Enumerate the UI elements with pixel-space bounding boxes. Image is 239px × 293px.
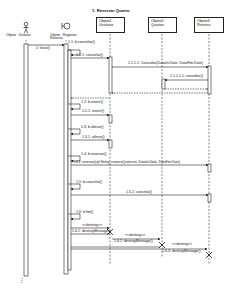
actor-user-icon <box>24 22 29 33</box>
msg-1-6: 1.6: b.fim() <box>76 211 93 215</box>
object-quartos: Objeto2 : Quartos <box>148 17 177 33</box>
object-reserva-class: Reserva <box>197 23 221 27</box>
msg-1-1-1-1: 1.1.1.1: Consultar(DataIni:Date, DataFim… <box>128 62 203 66</box>
msg-1-2-1: 1.2.1: inserir() <box>82 110 104 114</box>
msg-1-6-3-stereotype: <<destroy>> <box>172 243 192 247</box>
msg-1-3-1: 1.3.1: alterar() <box>82 136 105 140</box>
msg-1-1-1-1-1: 1.1.1.1.1: consultar() <box>170 75 203 79</box>
msg-1-4: 1.4: b.reservar() <box>81 153 107 157</box>
msg-1: 1: listar() <box>36 47 50 51</box>
actor-user-label: Objeto : Usuário <box>6 34 31 37</box>
msg-1-2: 1.2: b.inserir() <box>81 101 103 105</box>
msg-1-5-1: 1.5.1: cancelar() <box>126 191 152 195</box>
msg-1-6-2-stereotype: <<destroy>> <box>125 234 145 238</box>
object-usuarios: Objeto1 : Usuários <box>96 17 125 33</box>
object-quartos-class: Quartos <box>151 23 174 27</box>
sequence-diagram: 1. Reservar Quarto Objeto : Usuário Obje… <box>0 0 239 293</box>
msg-1-6-1: 1.6.1: destroyMessage() <box>72 230 111 234</box>
msg-1-3: 1.3: b.alterar() <box>81 126 104 130</box>
msg-1-1: 1.1: b.consultar() <box>68 41 95 45</box>
object-usuarios-class: Usuários <box>99 23 122 27</box>
diagram-lines <box>0 0 239 293</box>
msg-1-6-1-stereotype: <<destroy>> <box>82 224 102 228</box>
object-reserva: Objeto3 : Reserva <box>194 17 224 33</box>
boundary-icon <box>62 23 70 29</box>
msg-1-1-1: 1.1.1: consultar() <box>76 54 103 58</box>
msg-1-6-2: 1.6.2: destroyMessage() <box>114 240 153 244</box>
msg-1-6-3: 1.6.3: destroyMessage() <box>162 250 201 254</box>
msg-1-4-1: 1.4.1: reservar(cpf:String, numeroQuarto… <box>73 161 180 164</box>
msg-1-5: 1.5: b.cancelar() <box>76 181 102 185</box>
diagram-title: 1. Reservar Quarto <box>92 9 129 13</box>
